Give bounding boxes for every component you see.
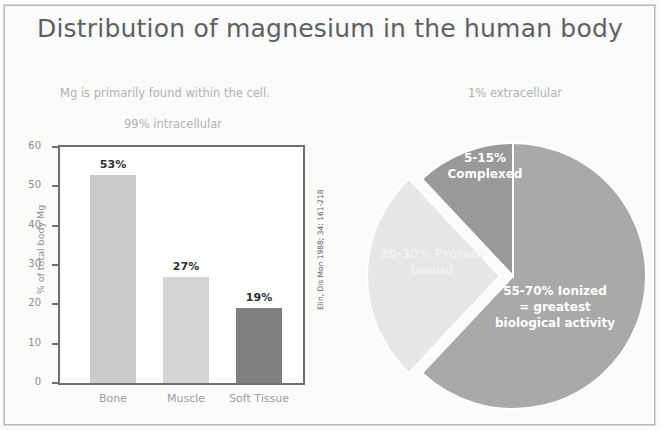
pie-chart: 55-70% Ionized = greatest biological act… <box>365 128 650 418</box>
left-caption-line-1: Mg is primarily found within the cell. <box>60 86 270 100</box>
y-tick-label: 10 <box>11 337 41 348</box>
y-tick-mark <box>52 382 58 384</box>
y-tick-label: 20 <box>11 297 41 308</box>
bar-chart-bars: 53%27%19% <box>60 147 303 383</box>
y-tick-mark <box>52 264 58 266</box>
bar <box>163 277 209 383</box>
title-divider <box>10 60 650 61</box>
bar-value-label: 27% <box>163 260 209 273</box>
y-tick-label: 50 <box>11 179 41 190</box>
slide-canvas: Distribution of magnesium in the human b… <box>0 0 660 430</box>
y-tick-label: 60 <box>11 140 41 151</box>
y-tick-label: 30 <box>11 258 41 269</box>
source-citation: Elin, Dis Mon 1988; 34: 161-218 <box>316 189 325 310</box>
bar <box>90 175 136 383</box>
bar <box>236 308 282 383</box>
pie-chart-svg <box>365 128 650 418</box>
y-tick-mark <box>52 343 58 345</box>
y-tick-mark <box>52 185 58 187</box>
bar-value-label: 53% <box>90 158 136 171</box>
y-tick-mark <box>52 225 58 227</box>
y-tick-mark <box>52 146 58 148</box>
bar-chart: % of total body Mg 0102030405060 53%27%1… <box>16 140 336 415</box>
bar-value-label: 19% <box>236 291 282 304</box>
y-tick-label: 40 <box>11 219 41 230</box>
y-tick-mark <box>52 303 58 305</box>
left-caption-line-2: 99% intracellular <box>124 117 222 131</box>
right-caption-line-1: 1% extracellular <box>468 86 562 100</box>
page-title: Distribution of magnesium in the human b… <box>0 14 660 43</box>
y-tick-label: 0 <box>11 376 41 387</box>
x-axis-category-label: Soft Tissue <box>206 392 312 405</box>
